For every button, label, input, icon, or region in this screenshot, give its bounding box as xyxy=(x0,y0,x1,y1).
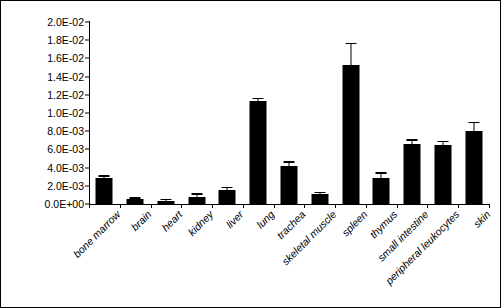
x-axis-line xyxy=(89,204,489,205)
bar xyxy=(96,178,113,204)
error-bar-cap xyxy=(468,122,479,124)
error-bar-cap xyxy=(253,98,264,100)
error-bar-cap xyxy=(376,172,387,174)
error-bar-cap xyxy=(222,187,233,189)
bar-slot xyxy=(304,22,335,204)
x-tick-mark xyxy=(397,204,398,208)
x-tick-label: lung xyxy=(254,208,277,231)
bar-slot xyxy=(427,22,458,204)
error-bar xyxy=(350,44,351,64)
bar-slot xyxy=(335,22,366,204)
x-tick-mark xyxy=(458,204,459,208)
bar xyxy=(188,197,205,204)
error-bar-cap xyxy=(283,161,294,163)
error-bar xyxy=(196,195,197,197)
error-bar xyxy=(135,199,136,200)
y-tick-label: 6.0E-03 xyxy=(47,143,84,155)
y-tick-label: 1.8E-02 xyxy=(47,34,84,46)
bar-slot xyxy=(89,22,120,204)
bar xyxy=(250,101,267,204)
bar xyxy=(342,65,359,204)
x-tick-label: brain xyxy=(129,208,154,233)
x-tick-label: skeletal muscle xyxy=(279,208,338,267)
bar xyxy=(373,178,390,204)
error-bar xyxy=(258,99,259,101)
bar xyxy=(311,194,328,204)
x-tick-label: kidney xyxy=(185,208,215,238)
error-bar xyxy=(104,177,105,178)
x-tick-mark xyxy=(181,204,182,208)
bar-slot xyxy=(212,22,243,204)
y-tick-label: 1.4E-02 xyxy=(47,71,84,83)
error-bar xyxy=(288,163,289,166)
error-bar xyxy=(412,141,413,144)
plot-area: 0.0E+002.0E-034.0E-036.0E-038.0E-031.0E-… xyxy=(89,22,489,204)
bar-slot xyxy=(243,22,274,204)
error-bar-cap xyxy=(99,175,110,177)
error-bar xyxy=(165,200,166,201)
x-tick-label: bone marrow xyxy=(71,208,123,260)
error-bar-cap xyxy=(314,192,325,194)
bar xyxy=(157,201,174,204)
bar-slot xyxy=(181,22,212,204)
x-tick-mark xyxy=(120,204,121,208)
x-tick-mark xyxy=(304,204,305,208)
error-bar-cap xyxy=(345,43,356,45)
x-tick-mark xyxy=(274,204,275,208)
y-tick-label: 1.6E-02 xyxy=(47,52,84,64)
y-tick-label: 2.0E-02 xyxy=(47,16,84,28)
x-tick-mark xyxy=(151,204,152,208)
bar xyxy=(434,145,451,204)
x-tick-mark xyxy=(427,204,428,208)
x-tick-mark xyxy=(335,204,336,208)
x-tick-label: spleen xyxy=(339,208,369,238)
error-bar xyxy=(381,174,382,178)
x-tick-mark xyxy=(366,204,367,208)
x-tick-mark xyxy=(243,204,244,208)
error-bar-cap xyxy=(160,199,171,201)
bar-slot xyxy=(151,22,182,204)
y-tick-label: 1.2E-02 xyxy=(47,89,84,101)
bar-slot xyxy=(366,22,397,204)
error-bar-cap xyxy=(437,141,448,143)
error-bar xyxy=(442,142,443,145)
y-tick-label: 0.0E+00 xyxy=(45,198,84,210)
bar xyxy=(219,190,236,204)
x-tick-mark xyxy=(212,204,213,208)
bar-slot xyxy=(397,22,428,204)
chart-figure: ORAI1/GAPDH 0.0E+002.0E-034.0E-036.0E-03… xyxy=(0,0,501,308)
error-bar-cap xyxy=(191,193,202,195)
bar-slot xyxy=(120,22,151,204)
bar-slot xyxy=(458,22,489,204)
bar xyxy=(465,131,482,204)
x-tick-label: heart xyxy=(159,208,184,233)
y-tick-label: 2.0E-03 xyxy=(47,180,84,192)
y-tick-label: 1.0E-02 xyxy=(47,107,84,119)
x-tick-label: skin xyxy=(470,208,492,230)
x-tick-mark xyxy=(89,204,90,208)
error-bar-cap xyxy=(130,197,141,199)
error-bar-cap xyxy=(407,139,418,141)
bar xyxy=(127,199,144,204)
x-tick-label: liver xyxy=(224,208,246,230)
error-bar xyxy=(319,193,320,194)
bar xyxy=(280,166,297,204)
bar xyxy=(404,144,421,204)
x-tick-mark xyxy=(489,204,490,208)
y-tick-label: 4.0E-03 xyxy=(47,162,84,174)
error-bar xyxy=(227,188,228,190)
bar-slot xyxy=(274,22,305,204)
error-bar xyxy=(473,123,474,131)
y-tick-label: 8.0E-03 xyxy=(47,125,84,137)
